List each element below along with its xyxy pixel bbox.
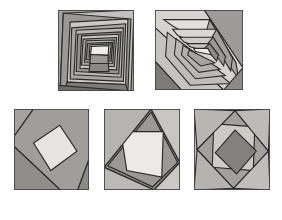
- panel-3-canvas: [14, 109, 89, 190]
- panel-4-canvas: [104, 109, 180, 190]
- panel-nested-square-spiral-slow: [58, 10, 134, 91]
- panel-three-step-inscribed-square: [194, 109, 270, 190]
- shape-layer-14: [89, 63, 109, 71]
- panel-nested-triangle-spiral: [155, 10, 243, 90]
- shape-layer-12: [91, 46, 109, 56]
- panel-2-canvas: [155, 10, 243, 90]
- panel-two-step-inscribed-quadrilateral: [104, 109, 180, 190]
- figure-board: [0, 0, 282, 220]
- panel-1-canvas: [58, 10, 134, 91]
- shape-layer-13: [90, 55, 108, 64]
- panel-5-canvas: [194, 109, 270, 190]
- panel-single-inscribed-quadrilateral: [14, 109, 89, 190]
